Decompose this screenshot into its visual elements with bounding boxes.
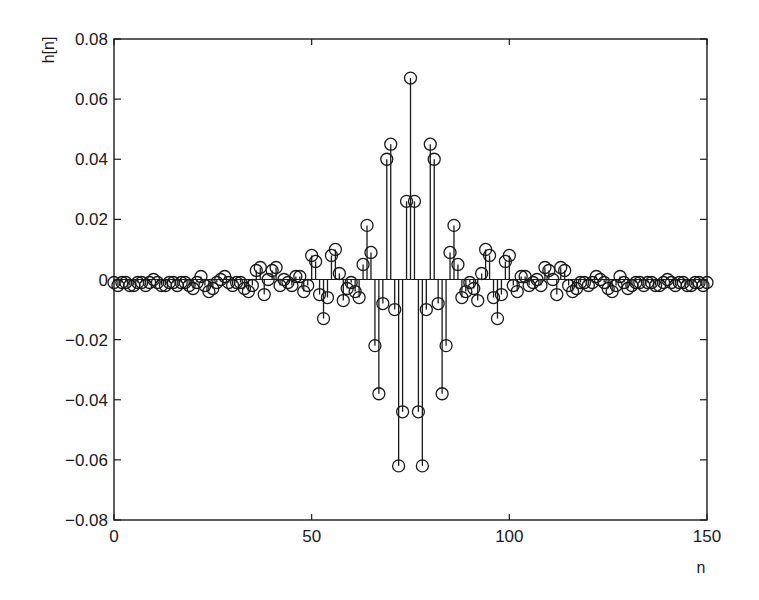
y-tick-label: 0.08 (75, 30, 108, 49)
y-tick-label: −0.08 (65, 511, 108, 530)
stem-plot: 050100150 0.080.060.040.020−0.02−0.04−0.… (0, 0, 759, 600)
y-tick-label: 0 (99, 271, 108, 290)
x-axis-label: n (697, 559, 706, 576)
y-tick-label: −0.06 (65, 451, 108, 470)
x-tick-label: 0 (109, 527, 118, 546)
y-axis-label: h[n] (40, 37, 57, 64)
y-tick-label: 0.02 (75, 210, 108, 229)
y-tick-label: 0.06 (75, 90, 108, 109)
x-tick-label: 50 (302, 527, 321, 546)
x-tick-label: 100 (495, 527, 523, 546)
y-tick-label: 0.04 (75, 150, 108, 169)
y-tick-label: −0.04 (65, 391, 108, 410)
x-tick-label: 150 (693, 527, 721, 546)
y-tick-label: −0.02 (65, 331, 108, 350)
